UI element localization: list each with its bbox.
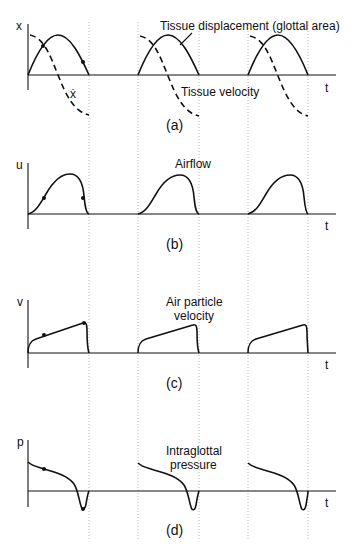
curve-label-line2: pressure bbox=[170, 458, 217, 472]
panel-caption: (b) bbox=[166, 236, 183, 252]
curve-label-line1: Air particle bbox=[166, 295, 223, 309]
panel-c: v t Air particle velocity (c) bbox=[17, 295, 336, 391]
marker-dot bbox=[42, 196, 46, 200]
panel-d: p t Intraglottal pressure (d) bbox=[17, 435, 336, 538]
curve-label-line2: velocity bbox=[174, 309, 214, 323]
panel-caption: (a) bbox=[166, 117, 183, 133]
marker-dot bbox=[82, 321, 86, 325]
panel-b: u t Airflow (b) bbox=[16, 157, 336, 252]
marker-dot bbox=[81, 196, 85, 200]
panel-caption: (c) bbox=[166, 375, 182, 391]
glottal-waveform-diagram: x t Tissue displacement (glottal area) ẋ… bbox=[0, 0, 358, 550]
marker-dot bbox=[41, 44, 45, 48]
tissue-displacement-curve bbox=[28, 35, 308, 75]
intraglottal-pressure-curve bbox=[28, 462, 308, 510]
marker-dot bbox=[42, 333, 46, 337]
x-axis-label: t bbox=[325, 81, 329, 95]
label-leader-line bbox=[180, 33, 192, 45]
airflow-curve bbox=[28, 174, 308, 214]
y-axis-label: u bbox=[16, 158, 23, 172]
x-axis-label: t bbox=[325, 496, 329, 510]
curve-label-velocity: Tissue velocity bbox=[181, 85, 259, 99]
marker-dot bbox=[81, 60, 85, 64]
curve-label-airflow: Airflow bbox=[175, 157, 211, 171]
y-axis-label: v bbox=[17, 295, 23, 309]
x-axis-label: t bbox=[325, 219, 329, 233]
x-axis-label: t bbox=[325, 358, 329, 372]
panel-a: x t Tissue displacement (glottal area) ẋ… bbox=[16, 19, 340, 133]
marker-dot bbox=[42, 467, 46, 471]
marker-dot bbox=[81, 507, 85, 511]
curve-label-displacement: Tissue displacement (glottal area) bbox=[160, 19, 340, 33]
panel-caption: (d) bbox=[166, 522, 183, 538]
y-axis-label: p bbox=[17, 435, 24, 449]
curve-label-line1: Intraglottal bbox=[166, 444, 222, 458]
x-dot-symbol: ẋ bbox=[70, 87, 76, 101]
y-axis-label: x bbox=[16, 19, 22, 33]
air-particle-velocity-curve bbox=[28, 323, 308, 353]
